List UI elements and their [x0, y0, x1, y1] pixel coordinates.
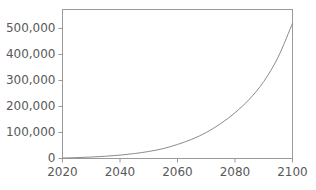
y-tick-label: 200,000	[6, 100, 56, 112]
x-axis-ticks	[63, 159, 293, 163]
x-tick-label: 2040	[90, 166, 150, 178]
x-tick-label: 2100	[263, 166, 316, 178]
plot-frame	[63, 10, 293, 159]
y-axis-ticks	[59, 28, 63, 158]
plot-border	[63, 10, 293, 159]
x-tick-label: 2060	[148, 166, 208, 178]
x-tick-label: 2020	[33, 166, 93, 178]
y-tick-label: 300,000	[6, 74, 56, 86]
y-tick-label: 400,000	[6, 48, 56, 60]
chart-figure: 0100,000200,000300,000400,000500,000 202…	[0, 0, 315, 190]
data-line	[63, 23, 293, 158]
x-tick-label: 2080	[205, 166, 265, 178]
y-tick-label: 0	[48, 152, 56, 164]
y-tick-label: 100,000	[6, 126, 56, 138]
y-tick-label: 500,000	[6, 22, 56, 34]
data-series-group	[63, 23, 293, 158]
